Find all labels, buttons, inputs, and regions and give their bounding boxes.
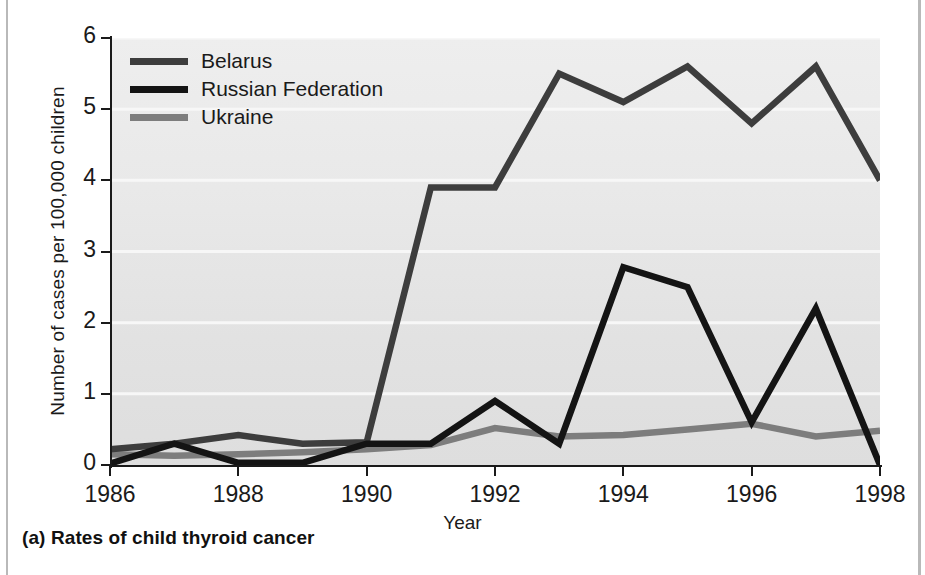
figure-caption: (a) Rates of child thyroid cancer: [22, 527, 315, 549]
y-tick-label: 2: [52, 307, 96, 334]
y-tick-mark: [101, 179, 110, 181]
y-tick-label: 6: [52, 22, 96, 49]
chart-legend: BelarusRussian FederationUkraine: [130, 47, 383, 131]
x-tick-mark: [879, 466, 881, 476]
y-tick-mark: [101, 393, 110, 395]
legend-swatch-icon: [130, 114, 188, 121]
legend-item-russian-federation: Russian Federation: [130, 75, 383, 103]
x-tick-mark: [622, 466, 624, 476]
y-tick-label: 1: [52, 378, 96, 405]
y-tick-label: 4: [52, 164, 96, 191]
x-tick-label: 1992: [450, 481, 540, 508]
y-axis-line: [110, 36, 112, 468]
legend-label: Ukraine: [201, 105, 273, 129]
x-tick-label: 1996: [707, 481, 797, 508]
x-tick-label: 1998: [835, 481, 925, 508]
y-tick-label: 3: [52, 236, 96, 263]
x-tick-mark: [109, 466, 111, 476]
x-tick-label: 1986: [65, 481, 155, 508]
y-tick-label: 0: [52, 449, 96, 476]
x-axis-line: [110, 465, 882, 467]
x-tick-mark: [751, 466, 753, 476]
x-tick-mark: [237, 466, 239, 476]
legend-label: Belarus: [201, 49, 272, 73]
y-tick-label: 5: [52, 93, 96, 120]
x-tick-mark: [366, 466, 368, 476]
y-tick-mark: [101, 251, 110, 253]
legend-swatch-icon: [130, 86, 188, 93]
legend-item-ukraine: Ukraine: [130, 103, 383, 131]
legend-swatch-icon: [130, 58, 188, 65]
y-tick-mark: [101, 322, 110, 324]
legend-item-belarus: Belarus: [130, 47, 383, 75]
figure-page: Number of cases per 100,000 children 012…: [0, 0, 925, 575]
x-tick-label: 1990: [322, 481, 412, 508]
y-tick-mark: [101, 108, 110, 110]
legend-label: Russian Federation: [201, 77, 383, 101]
x-tick-label: 1988: [193, 481, 283, 508]
y-tick-mark: [101, 37, 110, 39]
x-tick-label: 1994: [578, 481, 668, 508]
page-left-rule: [6, 0, 8, 575]
x-tick-mark: [494, 466, 496, 476]
